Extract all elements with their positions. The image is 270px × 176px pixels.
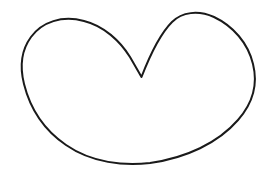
- drawing-canvas: [0, 0, 270, 176]
- heart-outline-figure: [0, 0, 270, 176]
